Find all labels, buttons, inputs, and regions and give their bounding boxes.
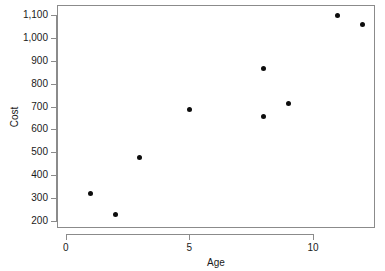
data-point	[360, 22, 365, 27]
x-axis-tick-mark	[313, 234, 314, 240]
y-axis-tick-label: 200	[31, 216, 48, 226]
y-axis-tick-label: 400	[31, 170, 48, 180]
y-axis-tick-label: 900	[31, 56, 48, 66]
y-axis-spine	[56, 15, 57, 220]
data-point	[261, 66, 266, 71]
y-axis-title: Cost	[10, 87, 20, 147]
scatter-plot-figure: 2003004005006007008009001,0001,100 0510 …	[0, 0, 385, 271]
data-point	[88, 191, 93, 196]
plot-area-frame	[57, 5, 375, 228]
data-point	[113, 212, 118, 217]
y-axis-tick-label: 800	[31, 79, 48, 89]
y-axis-tick-label: 600	[31, 124, 48, 134]
x-axis-tick-label: 5	[169, 243, 209, 253]
x-axis-tick-label: 10	[293, 243, 333, 253]
x-axis-spine	[66, 234, 313, 235]
y-axis-tick-mark	[51, 221, 57, 222]
y-axis-tick-label: 300	[31, 193, 48, 203]
x-axis-tick-label: 0	[46, 243, 86, 253]
x-axis-title: Age	[186, 258, 246, 268]
data-point	[187, 107, 192, 112]
y-axis-tick-label: 700	[31, 102, 48, 112]
y-axis-tick-label: 500	[31, 147, 48, 157]
y-axis-tick-label: 1,000	[23, 33, 48, 43]
data-point	[286, 101, 291, 106]
y-axis-tick-label: 1,100	[23, 10, 48, 20]
